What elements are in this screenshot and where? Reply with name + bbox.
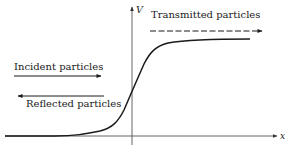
v-axis-label: V bbox=[136, 4, 144, 15]
reflected-particles-label: Reflected particles bbox=[26, 98, 121, 109]
potential-step-diagram: x V Transmitted particles Incident parti… bbox=[0, 0, 288, 151]
potential-curve bbox=[5, 39, 250, 136]
x-axis-label: x bbox=[280, 131, 285, 141]
incident-particles-label: Incident particles bbox=[14, 61, 103, 72]
transmitted-particles-label: Transmitted particles bbox=[151, 9, 260, 20]
